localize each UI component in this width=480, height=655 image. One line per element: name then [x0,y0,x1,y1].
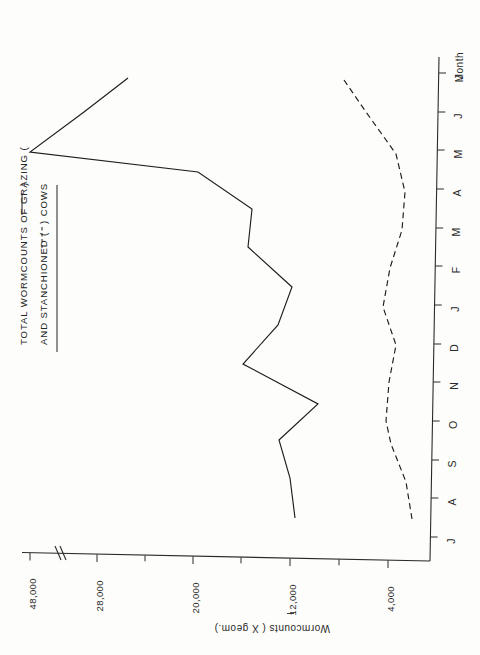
month-label: J [452,113,464,118]
figure-title-line-1-close: ) [18,182,29,186]
month-label: M [452,150,464,159]
figure-title-line-2-suffix: ) COWS [38,183,49,224]
value-tick-label: 48,000 [27,578,38,609]
value-tick-label: 4,000 [385,586,396,612]
month-label: J [445,538,457,543]
category-axis-line [430,57,439,561]
category-axis-labels: J A S O N D J F M A M J J Month [445,52,465,544]
series-grazing-line [30,78,318,518]
month-label: J [449,306,461,311]
value-axis-major-ticks [30,553,388,568]
value-axis-title-group: Wormcounts ( X geom.) [214,614,330,635]
month-label: A [451,189,463,196]
category-axis-group: J A S O N D J F M A M J J Month [430,52,465,561]
month-label: D [448,344,460,352]
chart-canvas: 48,000 28,000 20,000 12,000 4,000 Wormco… [0,0,480,655]
title-line-1-text: TOTAL WORMCOUNTS OF GRAZING ( [18,146,29,345]
value-tick-label: 20,000 [190,582,201,613]
series-stanchioned-line [344,80,412,519]
figure-title-group: TOTAL WORMCOUNTS OF GRAZING ( ) AND STAN… [18,146,57,352]
value-axis-group: 48,000 28,000 20,000 12,000 4,000 Wormco… [22,546,430,634]
month-label: F [450,267,462,273]
category-axis-ticks [430,73,446,537]
month-label: S [446,460,458,467]
figure-title-line-2-prefix: AND STANCHIONED ( [38,232,49,345]
value-axis-title: Wormcounts ( X geom.) [214,623,330,634]
month-label: O [447,421,459,429]
chart-figure: 48,000 28,000 20,000 12,000 4,000 Wormco… [0,0,480,655]
month-label: M [450,228,462,237]
value-axis-line [22,553,430,562]
month-label: N [448,382,460,390]
value-axis-tick-labels: 48,000 28,000 20,000 12,000 4,000 [27,578,396,615]
value-tick-label: 28,000 [94,580,105,611]
value-tick-label: 12,000 [287,584,298,615]
month-label: A [446,498,458,505]
figure-title-line-1: TOTAL WORMCOUNTS OF GRAZING ( [18,146,29,345]
category-axis-title: Month [454,52,465,82]
